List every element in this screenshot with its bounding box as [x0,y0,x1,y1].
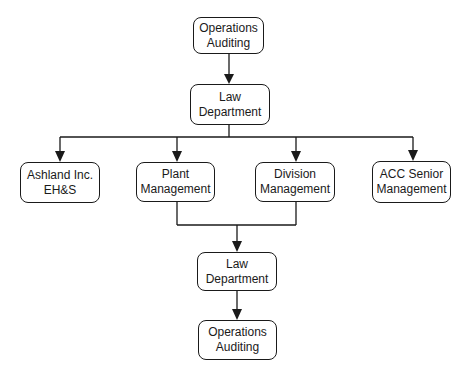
node-label-line2: Management [376,182,446,197]
node-label-line1: Law [219,90,241,105]
node-law-department-top: Law Department [190,84,270,125]
node-label-line2: EH&S [44,183,77,198]
node-plant-management: Plant Management [136,162,215,202]
node-label-line1: ACC Senior [380,167,443,182]
node-label-line1: Division [274,167,316,182]
node-label-line2: Auditing [207,36,250,51]
node-label-line2: Department [206,272,269,287]
node-label-line1: Ashland Inc. [27,168,93,183]
node-label-line2: Management [140,182,210,197]
node-label-line1: Plant [162,167,189,182]
node-label-line1: Operations [208,325,267,340]
node-label-line2: Management [260,182,330,197]
node-label-line1: Law [226,257,248,272]
node-operations-auditing-bottom: Operations Auditing [198,320,277,360]
node-ashland-ehs: Ashland Inc. EH&S [20,162,100,203]
node-law-department-bottom: Law Department [197,252,277,291]
node-label-line2: Department [199,105,262,120]
node-acc-senior-management: ACC Senior Management [372,161,451,203]
node-division-management: Division Management [255,162,335,202]
node-label-line1: Operations [199,21,258,36]
node-label-line2: Auditing [216,340,259,355]
node-operations-auditing-top: Operations Auditing [193,17,264,54]
